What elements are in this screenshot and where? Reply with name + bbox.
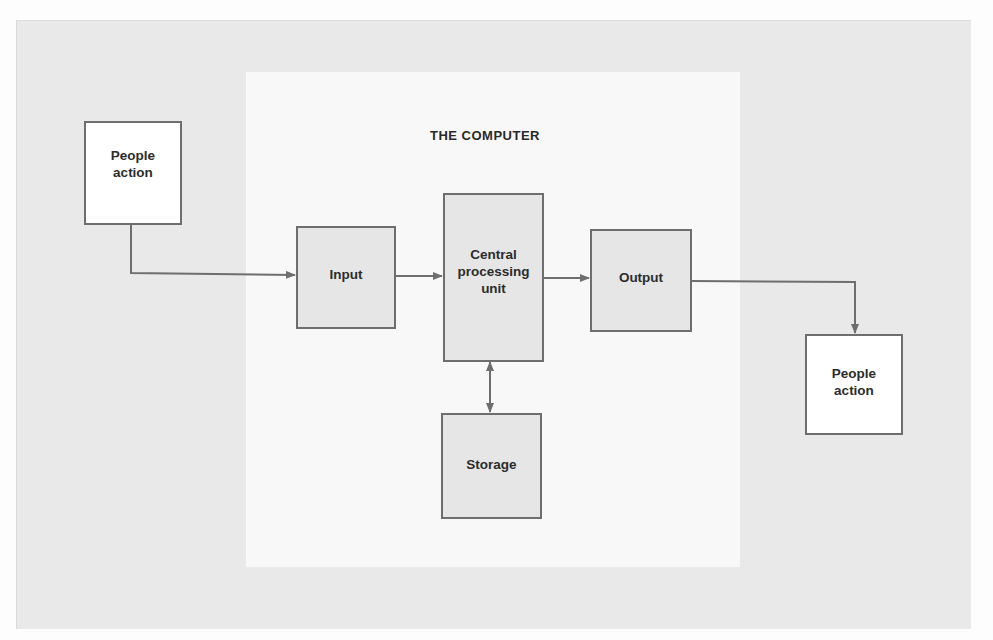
output-node: Output [590, 229, 692, 332]
node-label: People action [832, 365, 876, 399]
input-node: Input [296, 226, 396, 329]
node-label: People action [111, 147, 155, 181]
cpu-node: Central processing unit [443, 193, 544, 362]
storage-node: Storage [441, 413, 542, 519]
node-label: Input [330, 266, 363, 283]
node-label: Central processing unit [457, 246, 529, 297]
diagram-title: THE COMPUTER [430, 128, 540, 143]
node-label: Output [619, 269, 663, 286]
node-label: Storage [466, 456, 516, 473]
people-action-output-node: People action [805, 334, 903, 435]
people-action-input-node: People action [84, 121, 182, 225]
